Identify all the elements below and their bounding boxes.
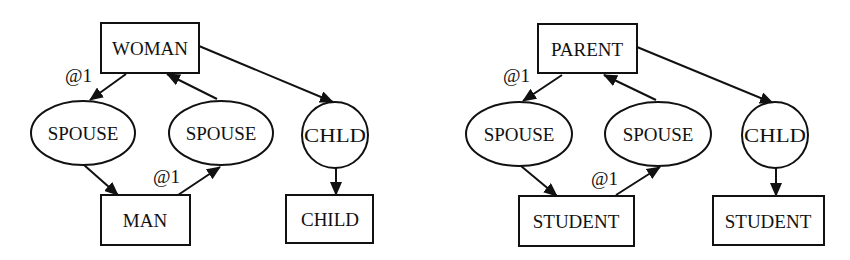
edge-woman-to-spouse-a [90, 74, 126, 100]
node-spouse-b-label: SPOUSE [623, 124, 694, 145]
node-child: CHILD [286, 195, 373, 243]
node-spouse-b: SPOUSE [605, 102, 711, 166]
node-parent: PARENT [538, 24, 637, 73]
diagram-canvas: WOMAN SPOUSE SPOUSE CHLD MAN CHILD @1 @1 [0, 0, 850, 260]
edge-man-to-spouse-b [178, 167, 220, 195]
node-chld: CHLD [742, 102, 808, 168]
edge-spouse-b-to-woman [167, 74, 217, 99]
edge-parent-to-chld [637, 47, 773, 103]
node-student-label: STUDENT [533, 211, 620, 232]
edge-spouse-a-to-man [84, 165, 118, 195]
edge-student-to-spouse-b [616, 167, 660, 195]
node-spouse-b-label: SPOUSE [186, 123, 257, 144]
node-spouse-a: SPOUSE [31, 101, 135, 165]
node-student-child: STUDENT [713, 196, 824, 245]
annotation-at1-man-spouse: @1 [153, 166, 180, 187]
node-spouse-a-label: SPOUSE [48, 123, 119, 144]
node-spouse-b: SPOUSE [169, 101, 273, 165]
node-chld-label: CHLD [304, 125, 366, 146]
diagram-parent-student: PARENT SPOUSE SPOUSE CHLD STUDENT STUDEN… [466, 24, 824, 246]
node-child-label: CHILD [301, 209, 359, 230]
edge-spouse-b-to-parent [604, 75, 656, 100]
node-spouse-a: SPOUSE [466, 102, 572, 166]
node-woman: WOMAN [101, 23, 199, 73]
node-chld-label: CHLD [744, 125, 806, 146]
diagram-woman-man: WOMAN SPOUSE SPOUSE CHLD MAN CHILD @1 @1 [31, 23, 373, 245]
node-parent-label: PARENT [551, 39, 624, 60]
annotation-at1-woman-spouse: @1 [65, 65, 92, 86]
node-student-child-label: STUDENT [725, 211, 812, 232]
node-man: MAN [101, 195, 190, 245]
node-man-label: MAN [123, 210, 168, 231]
node-spouse-a-label: SPOUSE [484, 124, 555, 145]
node-woman-label: WOMAN [112, 38, 188, 59]
annotation-at1-parent-spouse: @1 [503, 65, 530, 86]
node-student: STUDENT [519, 196, 634, 246]
edge-woman-to-chld [199, 46, 333, 102]
annotation-at1-student-spouse: @1 [591, 168, 618, 189]
node-chld: CHLD [302, 102, 368, 168]
edge-spouse-a-to-student [521, 166, 557, 196]
